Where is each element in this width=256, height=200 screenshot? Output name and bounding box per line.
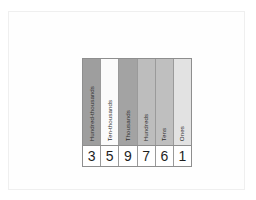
place-header-cell-ones: Ones <box>174 59 191 145</box>
digit-cell-hundred-thousands: 3 <box>83 146 101 166</box>
digit-cell-ten-thousands: 5 <box>101 146 119 166</box>
place-label-ones: Ones <box>179 126 185 141</box>
place-label-tens: Tens <box>161 128 167 141</box>
place-label-thousands: Thousands <box>125 110 131 141</box>
place-header-cell-thousands: Thousands <box>119 59 137 145</box>
digit-cell-hundreds: 7 <box>138 146 156 166</box>
place-label-ten-thousands: Ten-thousands <box>107 100 113 141</box>
digit-cell-thousands: 9 <box>119 146 137 166</box>
place-label-hundred-thousands: Hundred-thousands <box>88 86 94 141</box>
digit-cell-tens: 6 <box>156 146 174 166</box>
place-label-hundreds: Hundreds <box>143 114 149 141</box>
place-header-cell-ten-thousands: Ten-thousands <box>101 59 119 145</box>
place-header-cell-tens: Tens <box>156 59 174 145</box>
place-label-header-row: Hundred-thousands Ten-thousands Thousand… <box>83 59 191 145</box>
digit-row: 3 5 9 7 6 1 <box>83 145 191 166</box>
digit-cell-ones: 1 <box>174 146 191 166</box>
page-frame: Hundred-thousands Ten-thousands Thousand… <box>8 11 245 190</box>
place-value-chart: Hundred-thousands Ten-thousands Thousand… <box>82 58 192 167</box>
place-header-cell-hundred-thousands: Hundred-thousands <box>83 59 101 145</box>
place-header-cell-hundreds: Hundreds <box>138 59 156 145</box>
